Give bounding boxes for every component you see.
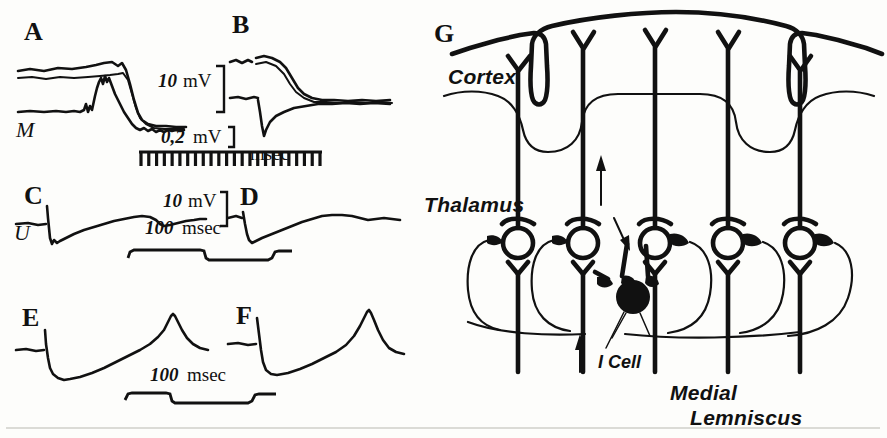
panel-g-letter: G: [434, 19, 454, 48]
scale-100msec-ef-value: 100: [150, 364, 179, 385]
i-cell-soma: [616, 280, 650, 314]
panel-c-letter: C: [24, 181, 43, 210]
panel-b-letter: B: [232, 10, 249, 39]
panel-e-letter: E: [22, 303, 39, 332]
label-medial: Medial: [670, 381, 738, 404]
scale-02mv-value: 0,2: [161, 126, 185, 147]
label-thalamus: Thalamus: [424, 193, 524, 216]
panel-c-trace-label: U: [14, 220, 32, 245]
label-lemniscus: Lemniscus: [690, 406, 802, 429]
figure-canvas: A M 10 mV 0,2 mV B: [0, 0, 887, 438]
panel-e-baseline: [16, 349, 44, 351]
panel-f-letter: F: [236, 301, 252, 330]
scale-02mv-unit: mV: [193, 126, 222, 147]
label-cortex: Cortex: [448, 65, 517, 88]
scale-10mv-unit: mV: [183, 70, 212, 91]
scale-msec-label: msec: [250, 143, 289, 164]
figure-background: [0, 0, 887, 438]
panel-a-trace-label: M: [15, 117, 36, 142]
panel-d-letter: D: [240, 182, 259, 211]
scale-10mv-cd-unit: mV: [188, 190, 217, 211]
scale-100msec-cd-value: 100: [145, 217, 174, 238]
scale-10mv-value: 10: [158, 70, 178, 91]
label-i-cell: I Cell: [598, 352, 642, 372]
scale-10mv-cd-value: 10: [163, 190, 183, 211]
scale-100msec-ef-unit: msec: [187, 364, 226, 385]
figure-root: A M 10 mV 0,2 mV B: [0, 0, 887, 438]
scale-100msec-cd-unit: msec: [182, 217, 221, 238]
panel-f-baseline: [228, 343, 256, 345]
panel-a-letter: A: [24, 17, 43, 46]
